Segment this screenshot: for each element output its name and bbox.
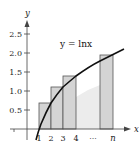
x-tick-1: 1: [36, 134, 41, 143]
y-tick-1.5: 1.5: [9, 68, 22, 77]
x-axis-arrow-icon: [124, 127, 131, 132]
y-tick-2.5: 2.5: [9, 30, 22, 39]
rect-n: [100, 55, 113, 129]
curve-label: y = lnx: [59, 39, 92, 49]
y-tick-1.0: 1.0: [9, 87, 22, 96]
x-tick-dots: ···: [89, 134, 97, 143]
x-tick-4: 4: [73, 134, 78, 143]
x-tick-2: 2: [48, 134, 53, 143]
y-tick-2.0: 2.0: [9, 49, 22, 58]
chart: 2.5 2.0 1.5 1.0 0.5 1 2 3 4 ··· n x y y …: [0, 0, 139, 150]
x-tick-n: n: [110, 133, 115, 143]
y-axis-arrow-icon: [25, 20, 30, 27]
rect-3-4: [63, 76, 76, 129]
y-axis-label: y: [24, 8, 30, 18]
x-axis-label: x: [134, 124, 139, 134]
x-tick-3: 3: [60, 134, 65, 143]
y-tick-0.5: 0.5: [9, 106, 22, 115]
